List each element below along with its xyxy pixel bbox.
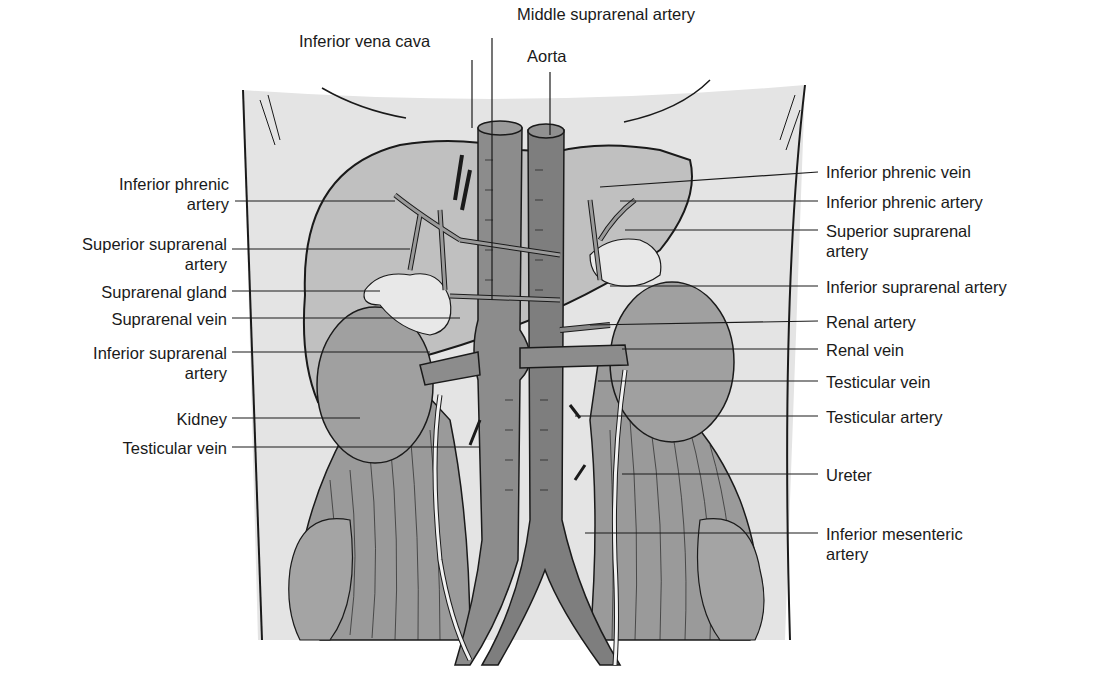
label-inferior-vena-cava: Inferior vena cava <box>299 31 430 51</box>
label-inferior-phrenic-vein: Inferior phrenic vein <box>826 162 971 182</box>
label-inferior-mesenteric-artery: Inferior mesenteric artery <box>826 524 963 564</box>
label-suprarenal-gland: Suprarenal gland <box>101 282 227 302</box>
label-kidney: Kidney <box>177 409 227 429</box>
label-suprarenal-vein: Suprarenal vein <box>111 309 227 329</box>
label-testicular-vein-right: Testicular vein <box>826 372 931 392</box>
label-inferior-phrenic-artery-left: Inferior phrenic artery <box>119 174 229 214</box>
renal-vein-right-side <box>520 345 628 368</box>
label-inferior-suprarenal-artery-left: Inferior suprarenal artery <box>93 343 227 383</box>
label-superior-suprarenal-artery-left: Superior suprarenal artery <box>82 234 227 274</box>
label-middle-suprarenal-artery: Middle suprarenal artery <box>517 4 695 24</box>
kidney-right <box>610 282 734 442</box>
anatomy-figure: Middle suprarenal artery Inferior vena c… <box>0 0 1097 690</box>
label-ureter: Ureter <box>826 465 872 485</box>
label-inferior-phrenic-artery-right: Inferior phrenic artery <box>826 192 983 212</box>
label-inferior-suprarenal-artery-right: Inferior suprarenal artery <box>826 277 1007 297</box>
label-renal-artery: Renal artery <box>826 312 916 332</box>
label-renal-vein: Renal vein <box>826 340 904 360</box>
label-testicular-vein-left: Testicular vein <box>122 438 227 458</box>
label-testicular-artery: Testicular artery <box>826 407 942 427</box>
label-aorta: Aorta <box>527 46 566 66</box>
label-superior-suprarenal-artery-right: Superior suprarenal artery <box>826 221 971 261</box>
